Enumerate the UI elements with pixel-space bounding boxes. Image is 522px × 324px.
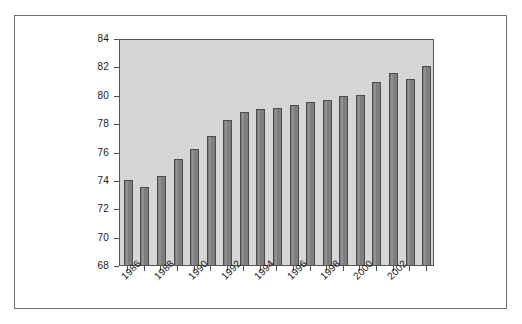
y-axis-tick-label: 70 (97, 231, 109, 244)
bar-highlight (142, 188, 144, 265)
bar (372, 82, 381, 265)
plot-area (119, 39, 434, 266)
bar-highlight (126, 181, 128, 265)
x-axis-tick-mark (144, 266, 145, 271)
x-axis-tick-mark (210, 266, 211, 271)
bar-highlight (391, 74, 393, 265)
bar (223, 120, 232, 265)
y-axis-tick-label: 76 (97, 146, 109, 159)
bar-chart-figure: 687072747678808284 198619881990199219941… (15, 16, 508, 310)
y-axis-tick-label: 80 (97, 89, 109, 102)
x-axis: 198619881990199219941996199820002002 (119, 266, 434, 310)
x-axis-tick-mark (177, 266, 178, 271)
bar-highlight (292, 106, 294, 265)
bar (356, 95, 365, 265)
bar-series (120, 40, 433, 265)
bar (256, 109, 265, 265)
bar-highlight (325, 101, 327, 265)
y-axis-tick-label: 84 (97, 32, 109, 45)
x-axis-tick-mark (376, 266, 377, 271)
bar-highlight (258, 110, 260, 265)
bar (140, 187, 149, 265)
y-axis-tick-label: 78 (97, 117, 109, 130)
bar-highlight (358, 96, 360, 265)
bar-highlight (424, 67, 426, 265)
bar (406, 79, 415, 265)
bar-highlight (374, 83, 376, 265)
bar (422, 66, 431, 265)
bar (273, 108, 282, 265)
bar-highlight (225, 121, 227, 265)
bar-highlight (308, 103, 310, 265)
bar (323, 100, 332, 265)
x-axis-tick-mark (276, 266, 277, 271)
bar-highlight (341, 97, 343, 265)
bar (174, 159, 183, 265)
bar (190, 149, 199, 265)
y-axis-tick-label: 68 (97, 259, 109, 272)
bar-highlight (275, 109, 277, 265)
chart-card: 687072747678808284 198619881990199219941… (14, 15, 507, 309)
x-axis-tick-mark (243, 266, 244, 271)
bar-highlight (242, 113, 244, 265)
bar-highlight (192, 150, 194, 265)
x-axis-tick-mark (310, 266, 311, 271)
bar-highlight (408, 80, 410, 265)
screenshot-root: 687072747678808284 198619881990199219941… (0, 0, 522, 324)
bar (306, 102, 315, 265)
bar (124, 180, 133, 265)
y-axis-tick-label: 74 (97, 174, 109, 187)
y-axis: 687072747678808284 (15, 39, 119, 266)
x-axis-tick-mark (426, 266, 427, 271)
bar (157, 176, 166, 265)
bar-highlight (176, 160, 178, 265)
bar (389, 73, 398, 265)
y-axis-tick-label: 82 (97, 60, 109, 73)
bar (290, 105, 299, 265)
y-axis-tick-label: 72 (97, 202, 109, 215)
bar-highlight (159, 177, 161, 265)
x-axis-tick-mark (343, 266, 344, 271)
bar (339, 96, 348, 265)
bar (207, 136, 216, 265)
bar-highlight (209, 137, 211, 265)
x-axis-tick-mark (409, 266, 410, 271)
bar (240, 112, 249, 265)
